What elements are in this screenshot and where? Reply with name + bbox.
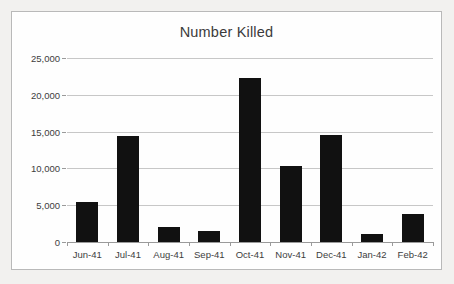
x-tick-label: Jun-41 bbox=[73, 249, 102, 260]
x-tick-mark bbox=[270, 242, 271, 246]
x-tick-slot: Jun-41 bbox=[67, 58, 108, 242]
plot-area: 05,00010,00015,00020,00025,000 Jun-41Jul… bbox=[67, 58, 433, 242]
y-tick-mark bbox=[62, 205, 66, 206]
chart-title: Number Killed bbox=[12, 24, 441, 40]
y-tick-label: 20,000 bbox=[31, 89, 60, 100]
x-tick-label: Sep-41 bbox=[194, 249, 225, 260]
x-tick-label: Dec-41 bbox=[316, 249, 347, 260]
y-tick-label: 5,000 bbox=[36, 200, 60, 211]
x-tick-mark bbox=[189, 242, 190, 246]
x-tick-label: Aug-41 bbox=[153, 249, 184, 260]
x-tick-label: Oct-41 bbox=[236, 249, 265, 260]
y-tick-mark bbox=[62, 132, 66, 133]
x-tick-mark bbox=[148, 242, 149, 246]
x-tick-label: Feb-42 bbox=[398, 249, 428, 260]
x-tick-slot: Jul-41 bbox=[108, 58, 149, 242]
y-tick-label: 25,000 bbox=[31, 53, 60, 64]
x-tick-label: Jul-41 bbox=[115, 249, 141, 260]
x-tick-mark bbox=[230, 242, 231, 246]
x-tick-slot: Oct-41 bbox=[230, 58, 271, 242]
x-tick-label: Nov-41 bbox=[275, 249, 306, 260]
x-tick-mark bbox=[67, 242, 68, 246]
chart-page: Number Killed 05,00010,00015,00020,00025… bbox=[0, 0, 454, 284]
y-tick-label: 10,000 bbox=[31, 163, 60, 174]
x-tick-slot: Dec-41 bbox=[311, 58, 352, 242]
x-tick-slot: Feb-42 bbox=[392, 58, 433, 242]
x-tick-mark bbox=[433, 242, 434, 246]
y-tick-label: 15,000 bbox=[31, 126, 60, 137]
chart-frame: Number Killed 05,00010,00015,00020,00025… bbox=[11, 11, 442, 270]
x-tick-mark bbox=[352, 242, 353, 246]
gridline bbox=[67, 242, 433, 243]
x-tick-mark bbox=[311, 242, 312, 246]
x-tick-slot: Jan-42 bbox=[352, 58, 393, 242]
y-tick-mark bbox=[62, 95, 66, 96]
y-tick-mark bbox=[62, 58, 66, 59]
x-tick-slot: Nov-41 bbox=[270, 58, 311, 242]
y-tick-mark bbox=[62, 168, 66, 169]
x-tick-mark bbox=[108, 242, 109, 246]
x-tick-label: Jan-42 bbox=[357, 249, 386, 260]
x-tick-slot: Aug-41 bbox=[148, 58, 189, 242]
y-tick-mark bbox=[62, 242, 66, 243]
y-tick-label: 0 bbox=[55, 237, 60, 248]
x-tick-slot: Sep-41 bbox=[189, 58, 230, 242]
x-tick-mark bbox=[392, 242, 393, 246]
